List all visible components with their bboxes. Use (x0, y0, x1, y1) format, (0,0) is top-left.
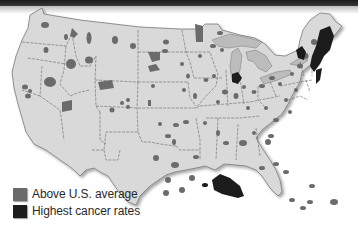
map-legend: Above U.S. average Highest cancer rates (13, 186, 140, 220)
legend-label: Highest cancer rates (32, 204, 140, 218)
legend-item-highest: Highest cancer rates (13, 203, 140, 219)
legend-swatch-highest (13, 205, 27, 218)
us-landmass (12, 8, 342, 205)
legend-swatch-above-average (13, 188, 27, 201)
legend-label: Above U.S. average (32, 187, 138, 201)
legend-item-above-average: Above U.S. average (13, 186, 140, 202)
